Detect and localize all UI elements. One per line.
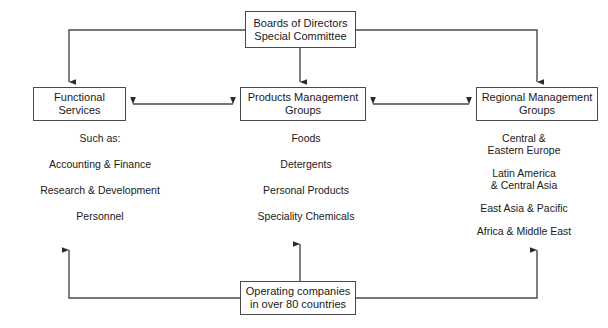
list-functional-services: Such as: Accounting & Finance Research &… xyxy=(0,132,200,236)
list-item: Research & Development xyxy=(0,184,200,196)
list-regional-management: Central & Eastern Europe Latin America &… xyxy=(440,132,608,248)
connector-operating-to-regional xyxy=(356,250,537,298)
connector-operating-to-functional xyxy=(69,250,240,298)
list-item: Personal Products xyxy=(216,184,396,196)
list-item: Africa & Middle East xyxy=(440,225,608,237)
connector-board-to-regional xyxy=(356,30,537,82)
list-item: Detergents xyxy=(216,158,396,170)
list-item: Personnel xyxy=(0,210,200,222)
list-item: Accounting & Finance xyxy=(0,158,200,170)
list-item: East Asia & Pacific xyxy=(440,202,608,214)
node-regional-management-groups: Regional Management Groups xyxy=(476,87,598,121)
list-products-management: Foods Detergents Personal Products Speci… xyxy=(216,132,396,236)
node-products-management-groups: Products Management Groups xyxy=(240,87,366,121)
org-chart-diagram: Boards of Directors Special Committee Fu… xyxy=(0,0,608,328)
connector-board-to-functional xyxy=(69,30,245,82)
list-item: Central & Eastern Europe xyxy=(440,132,608,156)
list-item: Such as: xyxy=(0,132,200,144)
list-item: Latin America & Central Asia xyxy=(440,167,608,191)
node-operating-companies: Operating companies in over 80 countries xyxy=(240,281,356,315)
node-boards-of-directors: Boards of Directors Special Committee xyxy=(245,11,356,48)
list-item: Foods xyxy=(216,132,396,144)
list-item: Speciality Chemicals xyxy=(216,210,396,222)
node-functional-services: Functional Services xyxy=(33,87,126,121)
